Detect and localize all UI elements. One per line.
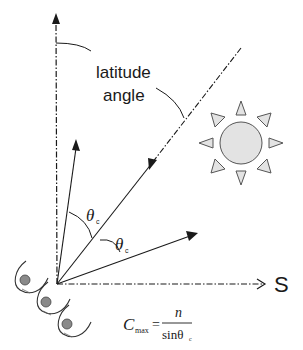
absorber-icon (20, 275, 30, 285)
arrow-down-left-icon (148, 158, 157, 170)
absorber-icon (62, 319, 72, 329)
formula-c-subscript: max (135, 326, 149, 335)
latitude-pointer-arc-bottom (156, 88, 184, 118)
solar-concentrator-diagram: latitude angle θ c θ c S C max = n (0, 0, 303, 350)
collector-1 (15, 261, 48, 293)
arrow-up-icon (72, 139, 80, 151)
theta-upper-label: θ (86, 206, 94, 225)
theta-lower-label: θ (115, 235, 123, 254)
latitude-label-line2: angle (103, 86, 145, 105)
cmax-formula: C max = n sinθ c (123, 305, 192, 342)
concentrator-cup-icon (15, 261, 48, 293)
arrow-right-icon (186, 231, 198, 241)
theta-upper-subscript: c (96, 218, 100, 225)
collector-3 (58, 305, 91, 337)
arrow-up-icon (52, 13, 60, 24)
formula-denominator-subscript: c (189, 336, 192, 342)
latitude-label-line1: latitude (96, 63, 151, 82)
formula-denominator: sinθ (162, 327, 183, 342)
vertical-axis (52, 13, 60, 284)
acceptance-ray-lower (57, 236, 190, 284)
formula-c: C (123, 315, 135, 334)
absorber-icon (41, 297, 51, 307)
formula-numerator: n (175, 305, 182, 320)
south-label: S (274, 272, 289, 297)
horizontal-axis-south (57, 279, 265, 289)
formula-equals: = (152, 317, 160, 332)
latitude-pointer-arc-top (56, 43, 91, 51)
theta-lower-subscript: c (125, 247, 129, 254)
sun-icon (199, 101, 283, 185)
collector-2 (37, 282, 70, 315)
